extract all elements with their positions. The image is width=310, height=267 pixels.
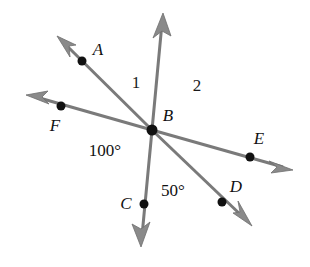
point-dot-e (246, 153, 255, 162)
angle-measure-100-label: 100° (89, 141, 121, 160)
angle-measure-50-label: 50° (161, 181, 185, 200)
geometry-diagram: B A F E D C 1 2 100° 50° (0, 0, 310, 267)
ray-lines-group (36, 23, 283, 236)
point-dot-a (78, 57, 87, 66)
point-label-d: D (229, 177, 243, 196)
point-dot-d (218, 198, 227, 207)
ray-line-b-up (152, 23, 162, 130)
region-labels-group: 1 2 (132, 73, 202, 95)
point-label-e: E (253, 129, 265, 148)
point-dot-f (57, 102, 66, 111)
vertex-dot-b (147, 125, 158, 136)
point-label-b: B (163, 106, 174, 125)
arrow-head-be (269, 161, 293, 173)
point-label-c: C (120, 194, 132, 213)
point-dot-c (140, 200, 149, 209)
geometry-figure: B A F E D C 1 2 100° 50° (0, 0, 310, 267)
angle-region-1-label: 1 (132, 73, 141, 92)
arrow-head-bf (26, 91, 49, 104)
point-label-f: F (49, 116, 61, 135)
ray-line-bc (142, 130, 152, 236)
angle-region-2-label: 2 (193, 76, 202, 95)
point-label-a: A (92, 40, 104, 59)
arrow-head-bd (233, 201, 252, 226)
arrow-head-bc (132, 222, 150, 247)
